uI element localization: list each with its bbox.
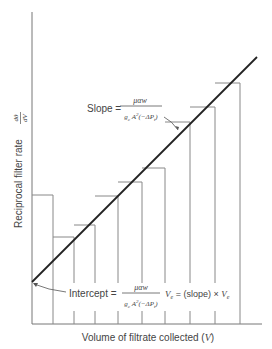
- y-axis-symbol-den: dV: [21, 113, 29, 122]
- svg-text:gc A2(−ΔPt): gc A2(−ΔPt): [124, 112, 158, 122]
- intercept-numerator: μαw: [133, 283, 148, 292]
- y-axis-symbol-num: dθ: [12, 114, 20, 122]
- svg-text:gc A2(−ΔPt): gc A2(−ΔPt): [124, 299, 158, 309]
- slope-numerator: μαw: [132, 96, 147, 105]
- slope-annotation: Slope = μαw gc A2(−ΔPt): [87, 96, 179, 130]
- x-axis-label: Volume of filtrate collected (V): [82, 332, 214, 343]
- intercept-label: Intercept =: [69, 288, 117, 299]
- filtration-diagram: Slope = μαw gc A2(−ΔPt) Intercept = μαw …: [0, 0, 272, 349]
- intercept-pointer-arrow: [34, 284, 66, 292]
- bar-1: [32, 195, 53, 324]
- fit-line: [32, 57, 257, 282]
- slope-label: Slope =: [87, 103, 121, 114]
- svg-text:Ve = (slope) × Ve: Ve = (slope) × Ve: [165, 289, 230, 300]
- y-axis-label-group: Reciprocal filter rate dθ dV: [12, 112, 29, 228]
- slope-pointer-arrow: [164, 117, 178, 130]
- y-axis-label: Reciprocal filter rate: [13, 139, 24, 228]
